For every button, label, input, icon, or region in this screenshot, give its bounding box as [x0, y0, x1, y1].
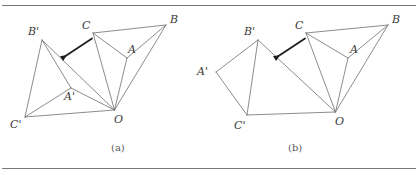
panel-a-edges [25, 25, 166, 117]
panel-a-label-Bp: B' [28, 26, 39, 37]
panel-b-caption: (b) [288, 143, 302, 153]
panel-b-label-Bp: B' [244, 26, 255, 37]
panel-a-label-B: B [170, 14, 178, 25]
panel-a-label-Cp: C' [10, 119, 21, 130]
panel-a-caption: (a) [111, 143, 125, 153]
panel-b-label-A: A [350, 44, 358, 55]
edge-C-A [93, 33, 127, 58]
edge-Ap-O [71, 88, 115, 110]
edge-C-A [306, 33, 348, 58]
horizontal-rules [2, 6, 416, 169]
edge-Bp-Cp [247, 40, 258, 115]
edge-B-O [115, 25, 167, 110]
panel-a-label-C: C [82, 20, 90, 31]
edge-Bp-Cp [25, 40, 42, 117]
panel-b-label-Ap: A' [197, 66, 208, 77]
edge-Bp-Ap [216, 40, 258, 72]
panel-b-label-Cp: C' [234, 120, 245, 131]
edge-C-B [306, 25, 388, 33]
geometry-figure: ABCOA'B'C'(a)ABCOA'B'C'(b) [0, 0, 418, 175]
panel-a-label-O: O [114, 114, 123, 125]
panel-b-label-O: O [335, 116, 344, 127]
panel-a-label-Ap: A' [64, 91, 75, 102]
edge-Cp-O [25, 110, 115, 117]
panel-b-label-C: C [295, 20, 303, 31]
panel-b-edges [216, 25, 388, 115]
edge-C-O [93, 33, 115, 110]
edge-Bp-O [258, 40, 336, 112]
edge-A-O [336, 58, 349, 112]
edge-Ap-Cp [216, 72, 247, 115]
edge-C-O [306, 33, 336, 112]
edge-C-B [93, 25, 166, 33]
panel-a-label-A: A [128, 44, 136, 55]
figure-canvas [0, 0, 418, 175]
edge-A-O [115, 58, 128, 110]
panel-b-arrow-icon [273, 39, 305, 62]
edge-Cp-O [247, 112, 336, 115]
panel-b-label-B: B [392, 14, 400, 25]
panel-a-arrow-icon [60, 39, 92, 62]
edge-B-O [336, 25, 389, 112]
